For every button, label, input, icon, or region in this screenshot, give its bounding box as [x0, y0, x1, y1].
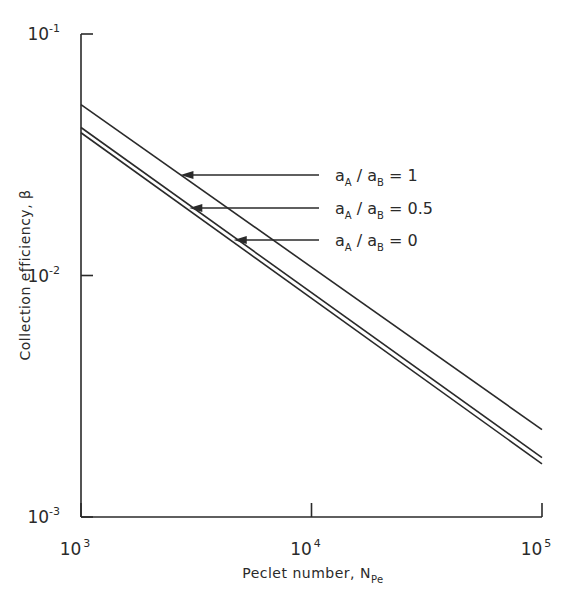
- y-axis-title: Collection efficiency, β: [17, 190, 33, 361]
- legend-annotations: aA / aB = 1aA / aB = 0.5aA / aB = 0: [180, 166, 433, 253]
- x-tick-label: 105: [521, 537, 552, 559]
- arrow-head-icon: [180, 171, 193, 179]
- series-line: [81, 105, 542, 430]
- series-line: [81, 128, 542, 458]
- y-tick-label: 10-1: [27, 22, 60, 44]
- x-tick-label: 103: [60, 537, 91, 559]
- legend-label: aA / aB = 1: [335, 166, 418, 188]
- arrow-head-icon: [189, 204, 202, 212]
- x-tick-label: 104: [290, 537, 321, 559]
- series-line: [81, 133, 542, 464]
- axes: 10-110-210-3103104105: [27, 22, 551, 559]
- data-lines: [81, 105, 542, 464]
- legend-label: aA / aB = 0: [335, 231, 418, 253]
- chart: 10-110-210-3103104105 aA / aB = 1aA / aB…: [0, 0, 571, 600]
- x-axis-title: Peclet number, NPe: [242, 565, 384, 585]
- legend-label: aA / aB = 0.5: [335, 199, 433, 221]
- arrow-head-icon: [234, 236, 247, 244]
- y-tick-label: 10-3: [27, 505, 60, 527]
